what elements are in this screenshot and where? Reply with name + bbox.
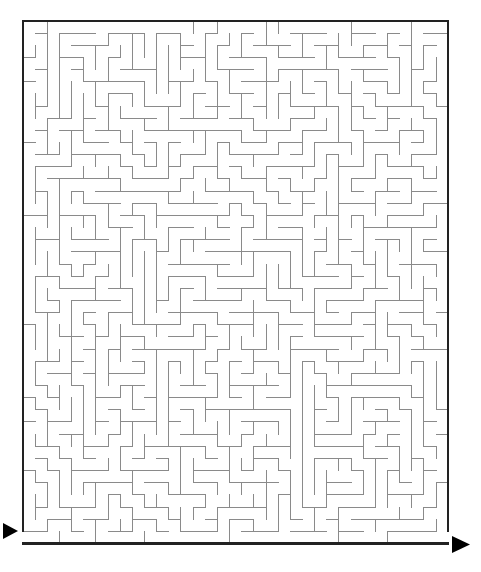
maze-canvas <box>0 0 481 572</box>
maze-background <box>0 0 481 572</box>
maze-puzzle-page: Maze Puzzle Start Finish <box>0 0 481 572</box>
